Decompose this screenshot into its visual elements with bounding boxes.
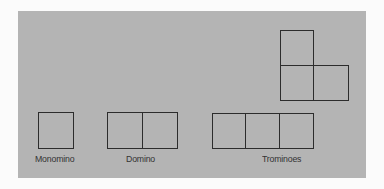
trominoes-label: Trominoes <box>262 153 301 164</box>
domino-cell-1 <box>107 112 143 149</box>
monomino-cell <box>38 112 74 149</box>
l-tromino-cell-top <box>280 30 314 66</box>
monomino-label: Monomino <box>35 153 74 164</box>
straight-tromino-cell-2 <box>245 113 280 149</box>
domino-label: Domino <box>126 153 155 164</box>
straight-tromino-cell-1 <box>212 113 246 149</box>
domino-cell-2 <box>142 112 178 149</box>
l-tromino-cell-bottom-left <box>280 65 314 101</box>
l-tromino-cell-bottom-right <box>313 65 349 101</box>
straight-tromino-cell-3 <box>279 113 314 149</box>
